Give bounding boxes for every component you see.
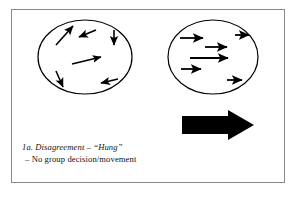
arrow-up-right (56, 26, 73, 45)
caption-title-1a: 1a. Disagreement – “Hung” (22, 142, 136, 152)
figure-root: 1a. Disagreement – “Hung” – No group dec… (0, 0, 301, 199)
group-boundary-ellipse (168, 20, 258, 94)
group-boundary-ellipse (38, 20, 132, 94)
panel-agreement: 1b. Agreement - Movement – Net group dec… (150, 0, 301, 199)
net-movement-block-arrow (182, 110, 254, 140)
arrow-down-left (56, 71, 63, 87)
aligned-arrow-group (180, 35, 249, 80)
caption-sub-1a: – No group decision/movement (25, 154, 136, 164)
arrow-left-low (101, 79, 118, 83)
arrow-right-mid (72, 57, 101, 64)
arrow-left-up (79, 30, 96, 37)
agreement-diagram (150, 0, 301, 199)
scattered-arrow-group (56, 26, 118, 87)
disagreement-diagram (0, 0, 150, 199)
panel-disagreement: 1a. Disagreement – “Hung” – No group dec… (0, 0, 150, 199)
caption-disagreement: 1a. Disagreement – “Hung” – No group dec… (22, 142, 136, 164)
